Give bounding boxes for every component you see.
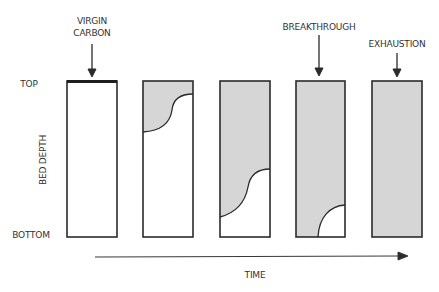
virgin-top-band (67, 80, 117, 83)
bed-column-1 (67, 80, 117, 237)
virgin-label-line2: CARBON (73, 28, 110, 38)
top-label: TOP (19, 79, 38, 89)
virgin-label-line1: VIRGIN (77, 16, 107, 26)
bottom-label: BOTTOM (12, 230, 50, 240)
bed-column-5 (372, 81, 422, 237)
breakthrough-label: BREAKTHROUGH (282, 22, 355, 32)
bed-depth-label: BED DEPTH (38, 135, 48, 185)
bed-column-3 (220, 81, 270, 237)
bed-column-2 (143, 81, 193, 237)
exhaustion-label: EXHAUSTION (368, 39, 425, 49)
breakthrough-arrow-icon (315, 35, 323, 76)
exhaustion-arrow-icon (393, 53, 401, 77)
carbon-bed-diagram: VIRGIN CARBON BREAKTHROUGH EXHAUSTION TO… (0, 0, 439, 292)
virgin-arrow-icon (88, 44, 96, 77)
time-label: TIME (244, 270, 266, 280)
time-arrow-icon (95, 252, 408, 260)
bed-column-4 (296, 81, 345, 237)
